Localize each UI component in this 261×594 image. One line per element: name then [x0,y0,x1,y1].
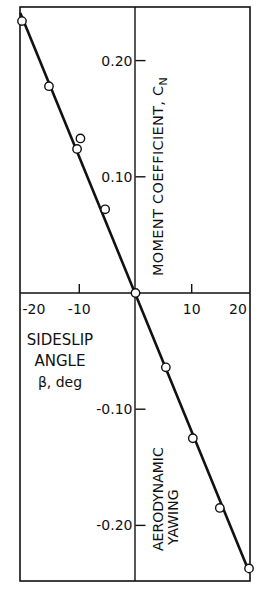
data-point-marker [18,17,26,25]
x-tick-label: 20 [229,301,247,317]
x-tick-label: 10 [183,301,201,317]
x-label-line-1: SIDESLIP [27,331,93,349]
data-point-marker [189,434,197,442]
y-axis-label-lower: AERODYNAMIC YAWING [150,447,181,551]
x-label-line-2: ANGLE [35,352,86,370]
data-point-marker [216,504,224,512]
y-tick-label: 0.10 [101,169,132,185]
x-tick-label: -10 [68,301,91,317]
data-point-marker [162,363,170,371]
svg-text:MOMENT COEFFICIENT, CN: MOMENT COEFFICIENT, CN [150,77,170,276]
data-point-marker [73,145,81,153]
x-label-line-3: β, deg [38,374,82,390]
y-axis-label-upper: MOMENT COEFFICIENT, CN [150,77,170,276]
x-axis-label: SIDESLIP ANGLE β, deg [27,331,93,390]
data-point-marker [131,289,139,297]
x-tick-label: -20 [23,301,46,317]
y-tick-label: 0.20 [101,53,132,69]
y-tick-label: -0.10 [96,401,132,417]
y-tick-label: -0.20 [96,517,132,533]
y-label-lower-line-1: AERODYNAMIC [150,447,166,551]
y-label-upper-text: MOMENT COEFFICIENT, C [150,86,166,276]
data-point-marker [245,564,253,572]
data-point-marker [45,82,53,90]
y-label-subscript: N [157,77,170,86]
y-label-lower-line-2: YAWING [165,489,181,546]
yawing-moment-chart: -20-101020 0.200.10-0.10-0.20 SIDESLIP A… [0,0,261,594]
data-point-marker [101,205,109,213]
data-point-marker [76,134,84,142]
